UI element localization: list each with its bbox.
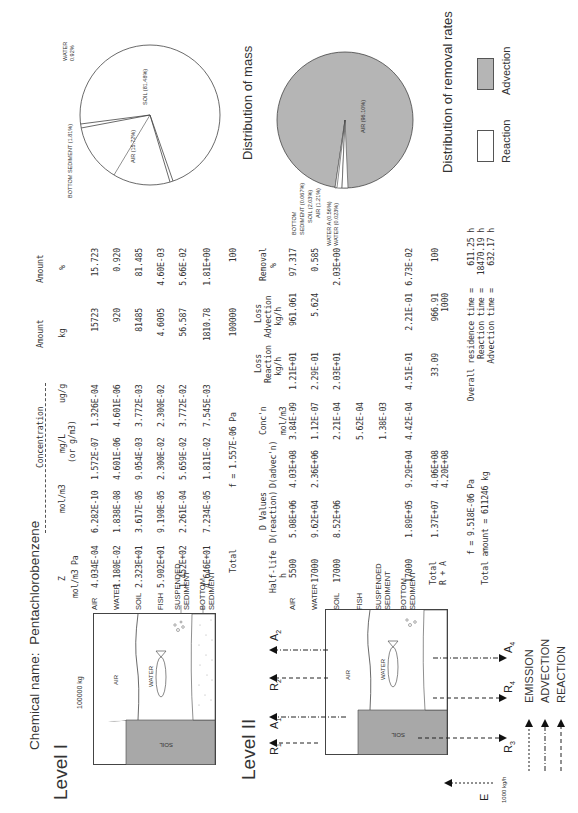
mass-pie-title: Distribution of mass: [240, 46, 255, 160]
l1-cell: 3.772E-03: [134, 384, 144, 427]
l2-total-la2: 1000: [440, 293, 450, 343]
l2-cell: 5.62E-04: [355, 402, 365, 440]
l2-removal-header: Removal: [258, 248, 268, 281]
chemical-name-value: Pentachlorobenzene: [27, 521, 42, 645]
l1-cell: 1.326E-04: [90, 384, 100, 427]
l2-cell: 97.317: [288, 248, 298, 293]
l2-lossa-header: Loss: [253, 304, 263, 323]
l1-cell: 1.81E+00: [202, 248, 212, 298]
l2-cell: 5.624: [310, 293, 320, 343]
svg-text:WATER (0.023%): WATER (0.023%): [333, 203, 339, 246]
l2-total-lr: 33.09: [430, 353, 440, 393]
l2-cell: 2.36E+06: [310, 450, 320, 488]
svg-text:AIR (1.21%): AIR (1.21%): [315, 188, 321, 218]
arrow-label-r2: R2: [268, 679, 282, 691]
l2-lossr-header2: Reaction: [263, 345, 273, 383]
legend-advection: ADVECTION: [539, 639, 551, 703]
l1-cell: 0.920: [112, 248, 122, 298]
l2-lossa-unit: kg/h: [273, 307, 283, 326]
l2-total-label2: R + A: [438, 561, 448, 585]
l2-cell: 1.38E-03: [378, 402, 388, 440]
pie-label-soil: SOIL (81.48%): [142, 69, 148, 105]
l2-halflife-header: Half-life: [268, 550, 278, 593]
l1-cell: 5.659E-02: [178, 437, 188, 480]
svg-text:AIR: AIR: [345, 669, 351, 680]
l1-cell: 7.545E-03: [202, 384, 212, 427]
mass-distribution-pie: SOIL (81.48%) AIR (15.72%) BOTTOM SEDIME…: [75, 33, 225, 193]
l1-mol-header: mol/m3: [57, 485, 67, 513]
l1-cell: 4.601E-06: [112, 437, 122, 480]
l1-z-header: Z: [57, 576, 67, 581]
l2-row-label: FISH: [355, 593, 364, 610]
l1-mgl-header: mg/L: [57, 434, 67, 453]
l1-cell: 3.772E-02: [178, 384, 188, 427]
pie-label-air: AIR (15.72%): [130, 130, 136, 163]
svg-text:SEDIMENT (0.067%): SEDIMENT (0.067%): [299, 183, 305, 235]
legend-reaction-label: Reaction: [500, 120, 512, 163]
l1-cell: 15723: [90, 308, 100, 358]
l1-cell: 1.452E+02: [178, 545, 188, 588]
l2-cell: 0.585: [310, 248, 320, 293]
svg-text:SOIL (2.03%): SOIL (2.03%): [307, 190, 313, 223]
removal-rates-pie: AIR (96.10%) AIR (1.21%) SOIL (2.03%) SE…: [265, 13, 425, 213]
l2-cell: 4.42E-04: [404, 402, 414, 440]
legend-emission: EMISSION: [523, 649, 535, 703]
rotated-document-page: Chemical name: Pentachlorobenzene Level …: [0, 0, 578, 813]
l2-cell: 4.03E+08: [288, 450, 298, 488]
l1-total-label: Total: [228, 549, 238, 573]
l2-cell: 2.29E-01: [310, 352, 320, 390]
l2-overall-residence-label: Overall residence time =: [466, 288, 476, 433]
l2-total-rem: 100: [430, 248, 440, 293]
emission-label: E: [478, 794, 490, 801]
pie2-label-air-adv: AIR (96.10%): [360, 100, 366, 133]
svg-text:BOTTOM: BOTTOM: [291, 211, 297, 235]
l2-conc-unit: mol/m3: [278, 407, 288, 435]
l1-cell: 81485: [134, 308, 144, 358]
l1-cell: 2.300E-02: [156, 437, 166, 480]
l2-cell: 5500: [288, 559, 298, 593]
l1-cell: 81.485: [134, 248, 144, 298]
l1-cell: 4.034E-04: [90, 545, 100, 588]
legend-reaction: REACTION: [555, 646, 567, 703]
emission-rate: 1000 kg/h: [501, 777, 507, 803]
l1-cell: 1.180E-02: [112, 545, 122, 588]
l1-cell: 4.6005: [156, 308, 166, 358]
l1-total-pct: 100: [228, 248, 238, 298]
l2-dreaction-header: D(reaction): [268, 491, 278, 543]
l2-row-label2: SEDIMENT: [383, 571, 392, 610]
l1-cell: 5.902E+01: [156, 545, 166, 588]
l2-cell: 6.73E-02: [404, 248, 414, 293]
l2-dvalues-header: D Values: [258, 492, 268, 530]
l1-mgl-header2: (or g/m3): [67, 420, 77, 463]
l1-row-label: AIR: [90, 597, 99, 610]
l1-cell: 5.66E-02: [178, 248, 188, 298]
arrow-label-a2: A2: [268, 630, 282, 641]
l1-cell: 9.190E-05: [156, 490, 166, 533]
l2-advection-time-label: Advection time =: [486, 288, 496, 433]
l2-cell: 1.89E+05: [404, 500, 414, 538]
svg-text:WATER A (0.56%): WATER A (0.56%): [326, 201, 332, 246]
l2-cell: 3.84E-09: [288, 402, 298, 440]
l2-row-label: AIR: [288, 597, 297, 610]
l1-cell: 9.054E-03: [134, 437, 144, 480]
l2-removal-unit: %: [268, 263, 278, 268]
l2-cell: 17000: [310, 559, 320, 593]
l2-reaction-time-label: Reaction time =: [476, 288, 486, 433]
arrow-label-a1: A1: [268, 718, 282, 729]
l1-cell: 56.587: [178, 308, 188, 358]
l2-total-label: Total: [428, 561, 438, 585]
l1-cell: 1810.78: [202, 308, 212, 358]
l2-dadvection-header: D(advec'n): [268, 441, 278, 488]
l1-conc-divider: [45, 383, 46, 533]
l1-cell: 15.723: [90, 248, 100, 298]
legend-advection-label: Advection: [500, 47, 512, 95]
removal-pie-title: Distribution of removal rates: [440, 11, 455, 173]
arrow-label-r1: R1: [268, 743, 282, 755]
l2-overall-residence-value: 611.25 h: [466, 228, 476, 288]
l2-cell: 2.03E+00: [332, 248, 342, 293]
l2-row-label: SUSPENDED: [374, 563, 383, 610]
l2-cell: 2.21E-04: [332, 402, 342, 440]
l1-cell: 920: [112, 308, 122, 358]
l2-lossr-unit: kg/h: [273, 357, 283, 376]
l2-cell: 4.51E-01: [404, 352, 414, 390]
